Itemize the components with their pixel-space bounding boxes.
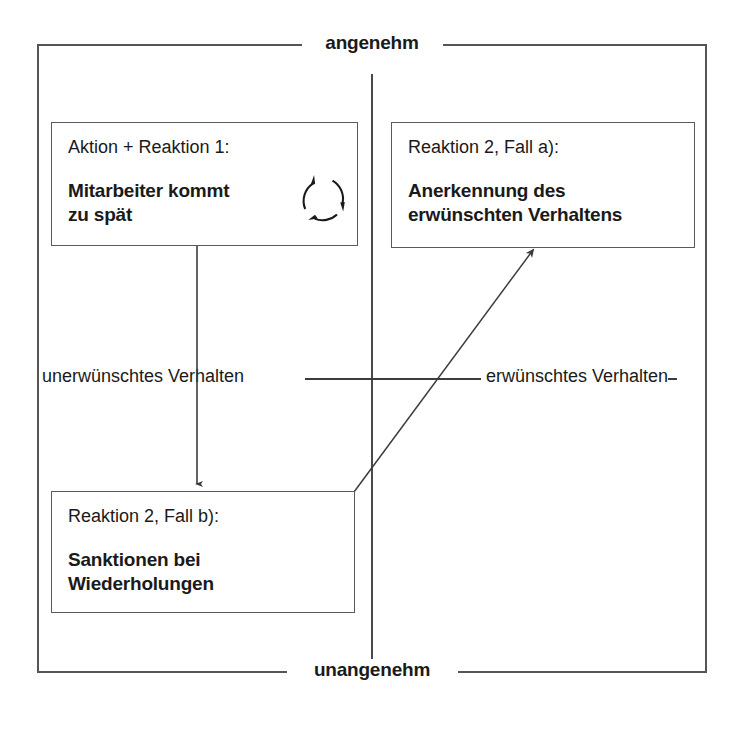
axis-label-top-text: angenehm: [318, 32, 425, 53]
box-action-reaction-1-body: Mitarbeiter kommt zu spät: [68, 179, 341, 228]
box-reaction-2-case-b-title: Reaktion 2, Fall b):: [68, 506, 338, 528]
axis-label-right: erwünschtes Verhalten: [481, 367, 668, 385]
box-reaction-2-case-b-body: Sanktionen bei Wiederholungen: [68, 548, 338, 597]
box-action-reaction-1-body-line-1: Mitarbeiter kommt: [68, 180, 229, 201]
box-reaction-2-case-a: Reaktion 2, Fall a): Anerkennung des erw…: [391, 122, 695, 248]
axis-label-top: angenehm: [0, 33, 744, 52]
axis-label-bottom: unangenehm: [0, 660, 744, 679]
box-reaction-2-case-b: Reaktion 2, Fall b): Sanktionen bei Wied…: [51, 491, 355, 613]
box-action-reaction-1-body-line-2: zu spät: [68, 204, 132, 225]
box-reaction-2-case-a-body-line-1: Anerkennung des: [408, 180, 565, 201]
box-reaction-2-case-a-body: Anerkennung des erwünschten Verhaltens: [408, 179, 678, 228]
box-action-reaction-1: Aktion + Reaktion 1: Mitarbeiter kommt z…: [51, 122, 358, 246]
box-reaction-2-case-b-body-line-2: Wiederholungen: [68, 573, 214, 594]
axis-label-bottom-text: unangenehm: [307, 659, 437, 680]
box-reaction-2-case-a-body-line-2: erwünschten Verhaltens: [408, 204, 622, 225]
axis-label-left: unerwünschtes Verhalten: [42, 367, 248, 385]
box-reaction-2-case-b-body-line-1: Sanktionen bei: [68, 549, 200, 570]
quadrant-diagram: angenehm unangenehm unerwünschtes Verhal…: [0, 0, 744, 733]
vertical-axis-line: [371, 74, 373, 672]
box-action-reaction-1-title: Aktion + Reaktion 1:: [68, 137, 341, 159]
box-reaction-2-case-a-title: Reaktion 2, Fall a):: [408, 137, 678, 159]
frame-left-border: [37, 44, 39, 673]
frame-right-border: [705, 44, 707, 673]
